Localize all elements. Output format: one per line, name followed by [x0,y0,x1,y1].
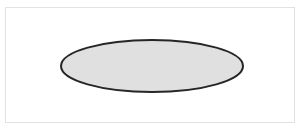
ellipse-canvas [0,0,303,135]
figure-root [0,0,303,135]
gray-ellipse [61,40,243,92]
